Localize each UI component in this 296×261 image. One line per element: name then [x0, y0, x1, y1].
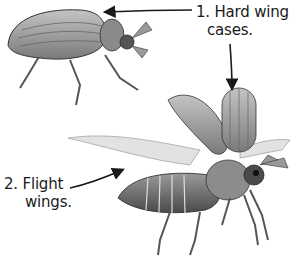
walking-beetle: [8, 10, 152, 105]
arrow-1-vertical: [230, 44, 232, 88]
arrow-1-horizontal: [106, 10, 192, 12]
label-hard-wing-cases: 1. Hard wing: [196, 4, 289, 21]
arrow-2: [70, 170, 122, 188]
label-flight-wings-line2: wings.: [25, 194, 72, 211]
flying-beetle: [68, 88, 290, 255]
label-flight-wings: 2. Flight: [4, 176, 63, 193]
label-hard-wing-cases-line2: cases.: [207, 22, 253, 39]
beetle-diagram: [0, 0, 296, 261]
